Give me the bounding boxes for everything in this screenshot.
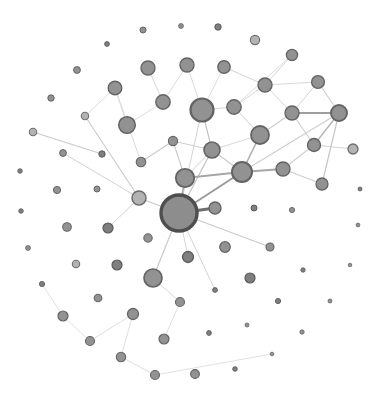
graph-node-n67: [128, 309, 139, 320]
graph-node-n49: [144, 234, 152, 242]
graph-node-n11: [258, 78, 272, 92]
graph-edge: [155, 354, 272, 375]
graph-node-n43: [289, 207, 294, 212]
network-graph: [0, 0, 380, 401]
graph-node-n41: [209, 202, 221, 214]
graph-node-n70: [300, 330, 304, 334]
graph-node-n9: [180, 58, 194, 72]
graph-node-n59: [39, 281, 44, 286]
graph-node-n64: [328, 299, 332, 303]
graph-node-n3: [215, 24, 221, 30]
graph-node-n34: [204, 142, 220, 158]
graph-node-n8: [141, 61, 155, 75]
graph-node-n48: [266, 243, 274, 251]
graph-node-n13: [108, 81, 122, 95]
graph-node-n32: [276, 162, 290, 176]
graph-node-n39: [358, 187, 362, 191]
graph-node-n69: [207, 331, 212, 336]
graph-node-n54: [26, 246, 31, 251]
graph-node-n52: [348, 263, 352, 267]
graph-node-n50: [183, 252, 194, 263]
graph-edge: [265, 82, 318, 85]
graph-node-n22: [29, 128, 36, 135]
graph-node-n60: [94, 294, 102, 302]
graph-node-n24: [251, 126, 269, 144]
graph-node-n14: [156, 95, 170, 109]
graph-edge: [164, 302, 180, 339]
graph-node-n15: [48, 95, 54, 101]
graph-node-n28: [99, 151, 105, 157]
graph-node-n73: [116, 352, 125, 361]
graph-node-n68: [245, 323, 249, 327]
graph-node-n44: [19, 209, 24, 214]
graph-node-n56: [72, 260, 79, 267]
graph-node-n75: [233, 367, 238, 372]
graph-node-n18: [285, 106, 299, 120]
graph-node-n21: [119, 117, 136, 134]
graph-node-n25: [308, 139, 321, 152]
graph-node-n51: [356, 223, 360, 227]
graph-node-n37: [94, 186, 100, 192]
graph-node-n55: [112, 260, 122, 270]
graph-node-n4: [105, 42, 110, 47]
graph-node-n63: [275, 298, 280, 303]
graph-node-n6: [286, 49, 297, 60]
graph-node-n30: [176, 169, 194, 187]
graph-node-n29: [136, 157, 146, 167]
graph-node-n23: [168, 136, 177, 145]
graph-edge: [121, 357, 155, 375]
graph-node-n5: [250, 35, 259, 44]
graph-node-n47: [220, 242, 231, 253]
graph-node-n40: [161, 195, 197, 231]
graph-edge: [141, 141, 173, 162]
graph-node-n2: [179, 24, 184, 29]
graph-node-n19: [331, 105, 347, 121]
graph-node-n72: [159, 334, 169, 344]
network-graph-figure: [0, 0, 380, 401]
graph-edge: [63, 153, 139, 198]
graph-node-n53: [301, 268, 305, 272]
graph-node-n57: [144, 269, 162, 287]
graph-node-n36: [132, 191, 146, 205]
graph-node-n74: [270, 352, 274, 356]
graph-node-n10: [218, 61, 230, 73]
graph-node-n61: [213, 288, 218, 293]
graph-node-n7: [74, 67, 81, 74]
graph-node-n71: [86, 337, 95, 346]
graph-node-n20: [81, 112, 88, 119]
graph-node-n33: [18, 169, 23, 174]
graph-node-n16: [191, 99, 214, 122]
graph-node-n31: [232, 162, 252, 182]
graph-node-n62: [176, 298, 185, 307]
graph-node-n1: [140, 27, 146, 33]
graph-node-n66: [58, 311, 68, 321]
graph-node-n77: [191, 370, 200, 379]
graph-node-n42: [251, 205, 257, 211]
graph-node-n12: [312, 76, 325, 89]
graph-node-n58: [245, 273, 255, 283]
graph-node-n46: [103, 223, 113, 233]
graph-node-n26: [348, 144, 358, 154]
graph-node-n35: [316, 178, 328, 190]
graph-node-n45: [63, 223, 72, 232]
graph-node-n27: [60, 150, 67, 157]
graph-node-n76: [151, 371, 160, 380]
graph-edge: [33, 132, 102, 154]
graph-node-n17: [227, 100, 241, 114]
graph-node-n38: [53, 186, 60, 193]
graph-edge: [42, 284, 63, 316]
